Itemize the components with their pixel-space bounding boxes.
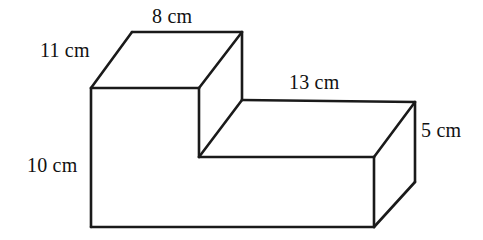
faces-group [91,32,415,227]
label-top-depth-8cm: 8 cm [152,6,192,26]
label-left-depth-11cm: 11 cm [40,40,90,60]
front-face-upper-block [91,88,199,157]
front-face-lower-step [91,157,374,227]
geometry-diagram: 8 cm 11 cm 13 cm 10 cm 5 cm [0,0,483,240]
label-left-height-10cm: 10 cm [27,155,77,175]
solid-figure-svg [0,0,483,240]
label-right-length-13cm: 13 cm [289,72,339,92]
label-right-height-5cm: 5 cm [421,120,461,140]
